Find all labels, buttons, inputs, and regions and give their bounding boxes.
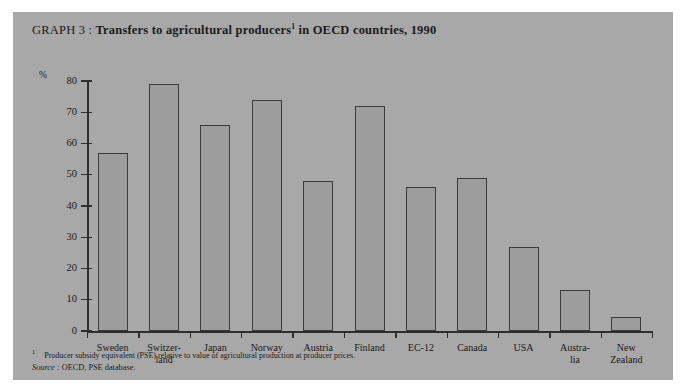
bar xyxy=(509,247,539,331)
y-axis-tick-label: 20 xyxy=(51,263,77,274)
y-axis-tick-label: 10 xyxy=(51,294,77,305)
bar xyxy=(252,100,282,331)
bar xyxy=(98,153,128,331)
chart-title-lead: GRAPH 3 : xyxy=(32,23,92,37)
x-axis-tick xyxy=(344,331,345,338)
y-axis-tick-label: 60 xyxy=(51,138,77,149)
y-axis-tick-label: 0 xyxy=(51,326,77,337)
y-axis-tick-label: 40 xyxy=(51,201,77,212)
x-axis-tick xyxy=(138,331,139,338)
bar xyxy=(355,106,385,331)
figure-notes: 1Producer subsidy equivalent (PSE) relat… xyxy=(32,346,652,373)
bar-series xyxy=(87,70,657,332)
chart-title-tail: in OECD countries, 1990 xyxy=(299,23,437,37)
x-axis-tick xyxy=(652,331,653,338)
x-axis-tick xyxy=(601,331,602,338)
figure-panel: GRAPH 3 : Transfers to agricultural prod… xyxy=(13,12,673,380)
y-axis-tick-label: 80 xyxy=(51,76,77,87)
footnote: 1Producer subsidy equivalent (PSE) relat… xyxy=(32,346,652,361)
bar xyxy=(200,125,230,331)
bar xyxy=(560,290,590,331)
chart-title: GRAPH 3 : Transfers to agricultural prod… xyxy=(32,22,436,38)
plot-area: % 01020304050607080 SwedenSwitzer-landJa… xyxy=(87,70,657,332)
chart-title-footnote-marker: 1 xyxy=(291,22,295,31)
source-label: Source : xyxy=(32,363,60,372)
y-axis-tick-label: 30 xyxy=(51,232,77,243)
x-axis-tick xyxy=(87,331,88,338)
y-axis-tick-label: 70 xyxy=(51,107,77,118)
y-axis-tick-label: 50 xyxy=(51,169,77,180)
bar xyxy=(611,317,641,331)
footnote-text: Producer subsidy equivalent (PSE) relati… xyxy=(44,351,355,360)
source-text: OECD, PSE database. xyxy=(62,363,136,372)
chart-title-main: Transfers to agricultural producers xyxy=(95,23,291,37)
x-axis-tick xyxy=(190,331,191,338)
x-axis-tick xyxy=(549,331,550,338)
y-axis-label: % xyxy=(39,70,47,80)
bar xyxy=(149,84,179,331)
x-axis-tick xyxy=(447,331,448,338)
source-note: Source : OECD, PSE database. xyxy=(32,362,652,373)
bar xyxy=(303,181,333,331)
bar xyxy=(406,187,436,331)
footnote-marker: 1 xyxy=(32,348,35,355)
x-axis-tick xyxy=(241,331,242,338)
x-axis-tick xyxy=(498,331,499,338)
x-axis-tick xyxy=(395,331,396,338)
bar xyxy=(457,178,487,331)
x-axis-tick xyxy=(292,331,293,338)
y-axis-tick-labels: 01020304050607080 xyxy=(51,70,77,332)
